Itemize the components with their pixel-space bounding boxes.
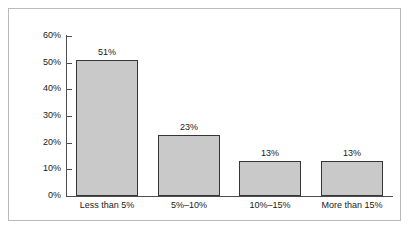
y-axis-tick-mark	[67, 143, 72, 144]
y-axis-tick-label: 30%	[19, 111, 61, 120]
bar	[321, 161, 383, 196]
y-axis-tick-label: 10%	[19, 164, 61, 173]
chart-frame: 0%10%20%30%40%50%60% 51%Less than 5%23%5…	[8, 8, 401, 221]
y-axis-tick-label: 50%	[19, 58, 61, 67]
y-axis-tick-mark	[67, 36, 72, 37]
y-axis-tick-label: 20%	[19, 138, 61, 147]
y-axis-tick-mark	[67, 196, 72, 197]
y-axis-tick-mark	[67, 89, 72, 90]
y-axis-tick-mark	[67, 63, 72, 64]
y-axis-tick-label: 40%	[19, 84, 61, 93]
bar-value-label: 13%	[312, 148, 392, 158]
bar-value-label: 51%	[67, 47, 147, 57]
y-axis-tick-mark	[67, 169, 72, 170]
bar-value-label: 23%	[149, 122, 229, 132]
y-axis-tick-mark	[67, 116, 72, 117]
y-axis-tick-label: 0%	[19, 191, 61, 200]
y-axis-tick-label: 60%	[19, 31, 61, 40]
x-axis-line	[66, 196, 393, 197]
x-axis-category-label: More than 15%	[302, 200, 402, 211]
bar	[239, 161, 301, 196]
bar-value-label: 13%	[230, 148, 310, 158]
bar	[158, 135, 220, 196]
bar-chart: 0%10%20%30%40%50%60% 51%Less than 5%23%5…	[9, 9, 402, 222]
bar	[76, 60, 138, 196]
